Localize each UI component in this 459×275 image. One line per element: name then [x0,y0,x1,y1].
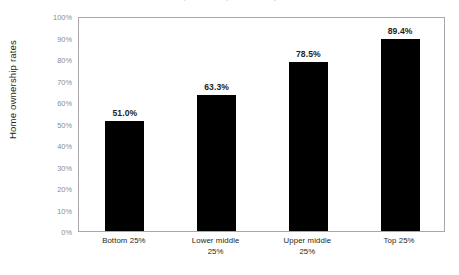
x-axis-category-label: Upper middle25% [259,235,355,257]
bars-layer: 51.0%63.3%78.5%89.4% [79,18,444,231]
y-axis-tick-labels: 0%10%20%30%40%50%60%70%80%90%100% [38,17,72,232]
y-axis-tick-label: 70% [38,77,72,86]
bar-value-label: 51.0% [112,108,137,118]
x-axis-category-label: Bottom 25% [76,235,172,246]
x-axis-category-label-line: Lower middle [168,235,264,246]
bar-rect[interactable] [289,62,328,231]
y-axis-tick-label: 10% [38,206,72,215]
x-axis-category-label-line: Top 25% [351,235,447,246]
plot-area: 51.0%63.3%78.5%89.4% [78,17,445,232]
bar-group[interactable]: 89.4% [381,18,420,231]
clipped-chart-title: Home ownership rates by income quartile [110,0,350,1]
bar-value-label: 78.5% [296,49,321,59]
bar-rect[interactable] [381,39,420,231]
bar-group[interactable]: 63.3% [197,18,236,231]
bar-chart-figure: Home ownership rates by income quartile … [0,0,459,275]
y-axis-title: Home ownership rates [7,10,18,170]
x-axis-category-label: Top 25% [351,235,447,246]
bar-group[interactable]: 51.0% [105,18,144,231]
y-axis-tick-label: 90% [38,34,72,43]
bar-rect[interactable] [197,95,236,231]
y-axis-tick-label: 40% [38,142,72,151]
x-axis-category-label-line: 25% [168,246,264,257]
y-axis-tick-label: 60% [38,99,72,108]
x-axis-category-label-line: 25% [259,246,355,257]
y-axis-tick-label: 100% [38,13,72,22]
y-axis-tick-label: 50% [38,120,72,129]
x-axis-category-labels: Bottom 25%Lower middle25%Upper middle25%… [78,235,445,271]
bar-value-label: 63.3% [204,82,229,92]
x-axis-category-label-line: Bottom 25% [76,235,172,246]
y-axis-tick-label: 80% [38,56,72,65]
x-axis-category-label-line: Upper middle [259,235,355,246]
bar-value-label: 89.4% [388,26,413,36]
y-axis-tick-label: 30% [38,163,72,172]
x-axis-category-label: Lower middle25% [168,235,264,257]
y-axis-tick-label: 0% [38,228,72,237]
bar-rect[interactable] [105,121,144,231]
bar-group[interactable]: 78.5% [289,18,328,231]
y-axis-tick-label: 20% [38,185,72,194]
